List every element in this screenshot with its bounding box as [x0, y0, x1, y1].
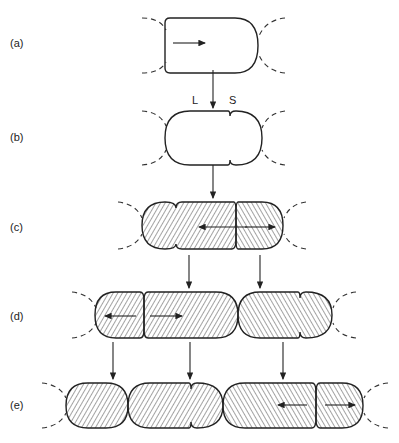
neighbor-cell-right — [364, 383, 388, 428]
row-e — [42, 383, 388, 428]
row-label-e: (e) — [10, 399, 23, 411]
cell-e2 — [128, 383, 223, 428]
cell-a — [165, 18, 258, 73]
cell-division-diagram: (a) (b) (c) (d) (e) L S — [0, 0, 399, 443]
neighbor-cell-left — [118, 202, 142, 249]
neighbor-cell-left — [142, 18, 166, 73]
cell-b — [165, 111, 262, 165]
row-label-c: (c) — [10, 221, 23, 233]
row-a — [142, 18, 285, 73]
neighbor-cell-right — [284, 202, 306, 249]
neighbor-cell-right — [333, 292, 356, 338]
cell-c-new — [236, 202, 283, 249]
neighbor-cell-left — [42, 383, 66, 428]
cell-c-old — [142, 202, 236, 249]
row-d — [72, 292, 356, 338]
neighbor-cell-left — [72, 292, 96, 338]
cell-e1 — [66, 383, 128, 428]
pole-label-S: S — [229, 94, 236, 106]
row-c — [118, 202, 306, 249]
neighbor-cell-right — [262, 111, 285, 165]
neighbor-cell-right — [259, 18, 285, 73]
cell-d2 — [144, 292, 238, 338]
cell-d1 — [95, 292, 144, 338]
row-label-d: (d) — [10, 310, 23, 322]
cell-d3 — [238, 292, 332, 338]
row-label-b: (b) — [10, 131, 23, 143]
row-label-a: (a) — [10, 37, 23, 49]
neighbor-cell-left — [142, 111, 166, 165]
pole-label-L: L — [192, 94, 198, 106]
